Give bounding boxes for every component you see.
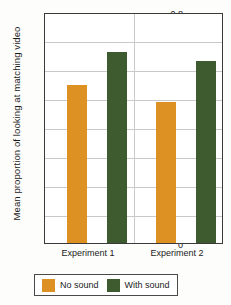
bar-experiment-2-no-sound xyxy=(156,102,176,243)
legend-entry-no-sound: No sound xyxy=(42,279,99,292)
legend-label-with-sound: With sound xyxy=(125,280,170,290)
plot-area xyxy=(44,13,223,244)
legend-swatch-no-sound xyxy=(42,279,55,292)
bar-chart-figure: Mean proportion of looking at matching v… xyxy=(0,0,231,305)
y-axis-title: Mean proportion of looking at matching v… xyxy=(11,4,22,244)
legend-entry-with-sound: With sound xyxy=(107,279,170,292)
category-divider xyxy=(134,14,135,243)
bar-experiment-2-with-sound xyxy=(196,61,216,243)
bar-experiment-1-no-sound xyxy=(67,85,87,243)
x-category-label-experiment-1: Experiment 1 xyxy=(48,248,128,258)
legend-swatch-with-sound xyxy=(107,279,120,292)
legend: No sound With sound xyxy=(34,274,178,296)
x-category-label-experiment-2: Experiment 2 xyxy=(137,248,217,258)
bar-experiment-1-with-sound xyxy=(107,52,127,243)
plot-inner xyxy=(45,14,222,243)
legend-label-no-sound: No sound xyxy=(60,280,99,290)
